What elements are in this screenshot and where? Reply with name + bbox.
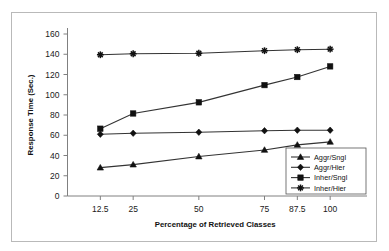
legend-item-label: Aggr/Sngl bbox=[314, 153, 346, 162]
x-axis-title: Percentage of Retrieved Classes bbox=[155, 220, 277, 229]
y-tick-label: 140 bbox=[45, 49, 59, 59]
x-axis-ticks bbox=[100, 196, 330, 200]
x-tick-label: 12.5 bbox=[92, 204, 109, 214]
chart-legend: Aggr/SnglAggr/HierInher/SnglInher/Hier bbox=[286, 148, 366, 194]
y-tick-label: 60 bbox=[50, 130, 60, 140]
y-axis-tick-labels: 020406080100120140160 bbox=[45, 29, 59, 201]
x-tick-label: 100 bbox=[323, 204, 337, 214]
chart-plot-area: 020406080100120140160 12.525507587.5100 … bbox=[0, 0, 389, 251]
data-series-inher-hier bbox=[97, 46, 334, 58]
x-tick-label: 50 bbox=[194, 204, 204, 214]
legend-item-label: Inher/Hier bbox=[314, 184, 347, 193]
y-tick-label: 80 bbox=[50, 110, 60, 120]
chart-figure: 020406080100120140160 12.525507587.5100 … bbox=[0, 0, 389, 251]
y-tick-label: 100 bbox=[45, 90, 59, 100]
y-tick-label: 40 bbox=[50, 151, 60, 161]
y-tick-label: 120 bbox=[45, 70, 59, 80]
y-tick-label: 160 bbox=[45, 29, 59, 39]
y-axis-ticks bbox=[64, 34, 68, 196]
y-axis-title: Response Time (Sec.) bbox=[26, 74, 35, 155]
data-series-aggr-hier bbox=[97, 127, 333, 137]
legend-item-label: Aggr/Hier bbox=[314, 163, 345, 172]
data-series-inher-sngl bbox=[98, 64, 333, 132]
x-tick-label: 25 bbox=[128, 204, 138, 214]
legend-item-label: Inher/Sngl bbox=[314, 173, 348, 182]
x-tick-label: 87.5 bbox=[289, 204, 306, 214]
x-axis-tick-labels: 12.525507587.5100 bbox=[92, 204, 337, 214]
x-tick-label: 75 bbox=[260, 204, 270, 214]
y-tick-label: 0 bbox=[55, 191, 60, 201]
y-tick-label: 20 bbox=[50, 171, 60, 181]
